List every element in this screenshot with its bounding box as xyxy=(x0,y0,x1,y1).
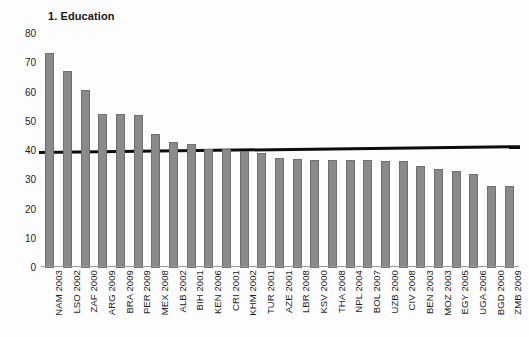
x-axis-tick-label: KSV 2000 xyxy=(319,270,329,314)
x-axis-tick-label: NAM 2003 xyxy=(54,270,64,316)
x-axis-tick-label: NPL 2004 xyxy=(354,270,364,313)
bar xyxy=(257,153,266,268)
bar xyxy=(151,134,160,268)
bar xyxy=(452,171,461,268)
bar xyxy=(45,53,54,268)
x-axis-tick-label: ZAF 2000 xyxy=(89,270,99,313)
bar xyxy=(63,71,72,268)
y-axis: 01020304050607080 xyxy=(0,30,41,274)
x-axis-baseline xyxy=(41,266,519,267)
y-axis-tick-label: 10 xyxy=(25,234,36,244)
bar xyxy=(346,160,355,268)
y-axis-tick-label: 20 xyxy=(25,205,36,215)
bar xyxy=(416,166,425,268)
x-axis-tick-label: CIV 2008 xyxy=(407,270,417,310)
bar xyxy=(363,160,372,268)
x-axis-tick-label: EGY 2005 xyxy=(460,270,470,314)
bar xyxy=(187,144,196,268)
x-axis-tick-label: AZE 2001 xyxy=(284,270,294,313)
x-axis-tick-label: KEN 2006 xyxy=(213,270,223,314)
y-axis-tick-label: 70 xyxy=(25,58,36,68)
y-axis-tick-label: 60 xyxy=(25,88,36,98)
x-axis-tick-label: PER 2009 xyxy=(142,270,152,314)
x-axis-tick-label: BIH 2001 xyxy=(195,270,205,310)
x-axis-tick-label: BGD 2000 xyxy=(496,270,506,315)
bar xyxy=(204,149,213,268)
x-axis-tick-label: ALB 2002 xyxy=(178,270,188,313)
bar xyxy=(116,114,125,268)
x-axis-tick-label: BOL 2007 xyxy=(372,270,382,313)
x-axis-tick-label: ARG 2009 xyxy=(107,270,117,315)
bar xyxy=(293,159,302,268)
x-axis-tick-label: TUR 2001 xyxy=(266,270,276,314)
x-axis-tick-label: BRA 2009 xyxy=(125,270,135,314)
bar xyxy=(487,186,496,268)
chart-title: 1. Education xyxy=(48,10,115,22)
chart-figure: 1. Education 01020304050607080 NAM 2003L… xyxy=(0,0,529,338)
x-axis-tick-label: KHM 2002 xyxy=(248,270,258,316)
plot-area xyxy=(41,34,518,268)
x-axis-tick-label: CRI 2001 xyxy=(231,270,241,311)
y-axis-tick-label: 50 xyxy=(25,117,36,127)
bar xyxy=(169,142,178,268)
bar xyxy=(98,114,107,268)
y-axis-tick-label: 0 xyxy=(30,263,36,273)
bar xyxy=(434,169,443,268)
y-axis-tick-label: 80 xyxy=(25,29,36,39)
x-axis-tick-label: UZB 2000 xyxy=(390,270,400,314)
x-axis-tick-label: THA 2008 xyxy=(337,270,347,313)
x-axis-tick-label: ZMB 2009 xyxy=(513,270,523,315)
x-axis-tick-label: MEX 2008 xyxy=(160,270,170,315)
y-axis-tick-label: 30 xyxy=(25,175,36,185)
bar xyxy=(328,160,337,268)
x-axis-tick-label: BEN 2003 xyxy=(425,270,435,314)
bar xyxy=(469,174,478,268)
reference-line xyxy=(39,145,520,154)
x-axis-labels: NAM 2003LSO 2002ZAF 2000ARG 2009BRA 2009… xyxy=(41,268,519,338)
bar xyxy=(134,115,143,268)
bar xyxy=(310,160,319,268)
x-axis-tick-label: LSO 2002 xyxy=(72,270,82,314)
bar xyxy=(505,186,514,268)
bar xyxy=(240,151,249,268)
x-axis-tick-label: UGA 2006 xyxy=(478,270,488,315)
x-axis-tick-label: MOZ 2003 xyxy=(443,270,453,316)
x-axis-tick-label: LBR 2008 xyxy=(301,270,311,313)
bar xyxy=(81,90,90,268)
bar xyxy=(399,161,408,268)
y-axis-tick-label: 40 xyxy=(25,146,36,156)
bar xyxy=(381,161,390,268)
bar xyxy=(275,158,284,268)
bar xyxy=(222,149,231,268)
